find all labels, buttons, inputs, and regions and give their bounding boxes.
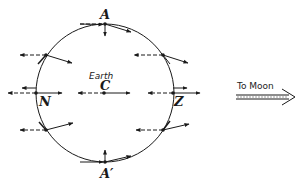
label-a: A: [98, 7, 110, 22]
label-to-moon: To Moon: [236, 81, 274, 91]
label-z: Z: [173, 94, 184, 109]
label-earth: Earth: [89, 71, 113, 81]
point-upper-right-arrows: [134, 53, 188, 64]
point-n-arrows: [8, 88, 62, 95]
point-a-prime-arrows: [80, 150, 131, 164]
point-a-arrows: [80, 22, 131, 36]
point-lower-right-arrows: [136, 121, 189, 132]
label-n: N: [38, 94, 52, 109]
point-lower-left-arrows: [20, 122, 73, 132]
point-upper-left-arrows: [20, 53, 72, 64]
tide-force-diagram: A A′ N Z C Earth To Moon: [0, 0, 301, 181]
label-a-prime: A′: [98, 166, 114, 181]
to-moon-arrow: To Moon: [236, 81, 295, 105]
